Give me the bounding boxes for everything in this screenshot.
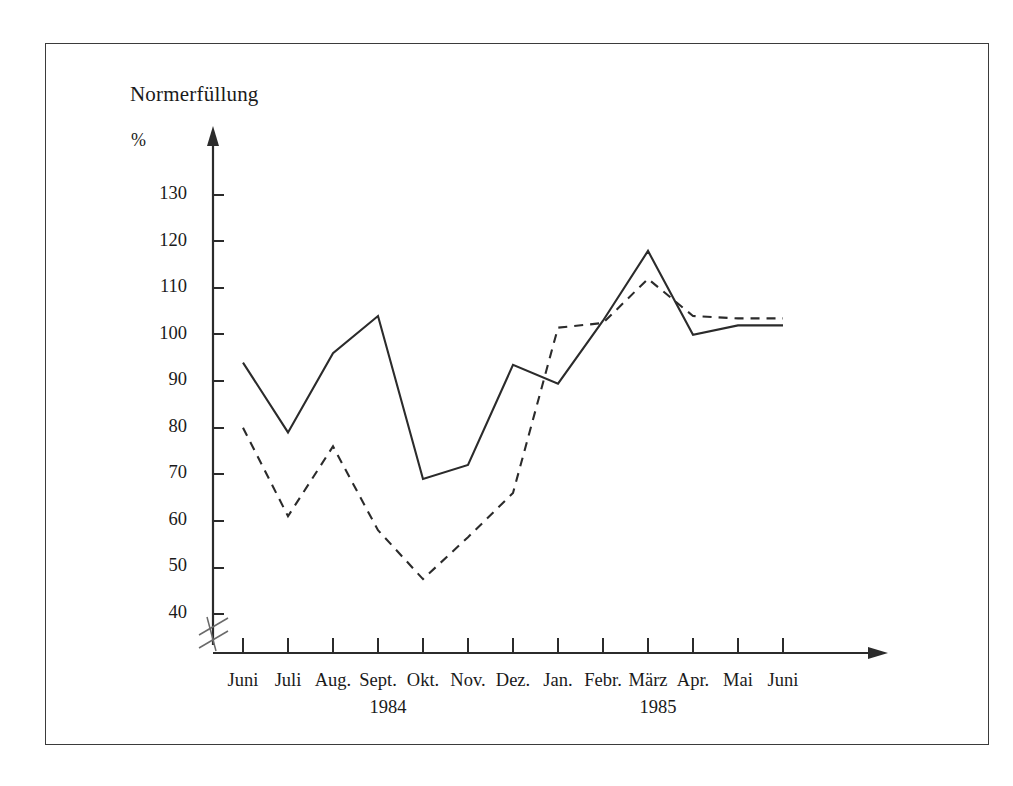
x-axis-arrow-icon <box>868 647 888 659</box>
y-tick-label-70: 70 <box>131 462 187 483</box>
x-tick-label-jan-7: Jan. <box>543 670 572 691</box>
y-tick-label-40: 40 <box>131 602 187 623</box>
chart-plot <box>0 0 1013 786</box>
figure-root: Normerfüllung % <box>0 0 1013 786</box>
y-tick-label-80: 80 <box>131 416 187 437</box>
series-line-solid <box>243 251 783 479</box>
x-tick-label-sept-3: Sept. <box>359 670 397 691</box>
x-tick-label-nov-5: Nov. <box>450 670 485 691</box>
y-tick-label-90: 90 <box>131 369 187 390</box>
y-tick-label-120: 120 <box>131 230 187 251</box>
x-tick-label-märz-9: März <box>628 670 667 691</box>
x-tick-label-juni-0: Juni <box>228 670 259 691</box>
x-tick-label-apr-10: Apr. <box>677 670 709 691</box>
x-tick-label-juli-1: Juli <box>275 670 302 691</box>
y-tick-label-100: 100 <box>131 323 187 344</box>
y-axis-arrow-icon <box>207 126 219 146</box>
year-label-1985: 1985 <box>640 697 677 718</box>
series-group <box>243 251 783 579</box>
year-label-1984: 1984 <box>370 697 407 718</box>
x-tick-label-aug-2: Aug. <box>315 670 352 691</box>
x-tick-label-mai-11: Mai <box>723 670 753 691</box>
x-tick-label-juni-12: Juni <box>768 670 799 691</box>
axes-group <box>199 126 888 659</box>
y-tick-label-60: 60 <box>131 509 187 530</box>
x-tick-label-okt-4: Okt. <box>407 670 439 691</box>
x-tick-label-febr-8: Febr. <box>584 670 622 691</box>
series-line-dashed <box>243 279 783 579</box>
y-tick-marks <box>213 195 224 614</box>
y-tick-label-130: 130 <box>131 183 187 204</box>
x-tick-label-dez-6: Dez. <box>496 670 530 691</box>
y-tick-label-50: 50 <box>131 555 187 576</box>
y-tick-label-110: 110 <box>131 276 187 297</box>
x-tick-marks <box>243 638 783 653</box>
